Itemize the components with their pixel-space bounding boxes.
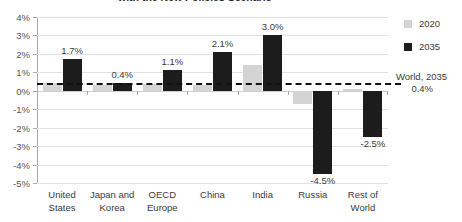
x-axis-tick [338,91,339,95]
x-axis-category-label: OECDEurope [147,188,178,214]
legend-label-2035: 2035 [419,41,440,52]
bar-2020-india [243,65,262,91]
y-axis-tick-label: -2% [13,122,30,133]
y-axis-tick-label: -4% [13,159,30,170]
x-axis-tick [387,91,388,95]
y-axis-tick [33,183,37,184]
y-axis-tick-label: 1% [16,67,30,78]
x-axis-category-label: Rest ofWorld [348,188,378,214]
bar-group: 1.1% [137,17,187,183]
y-axis-tick-label: -3% [13,141,30,152]
bar-2035-united-states [63,59,82,90]
x-axis-category-label: India [252,188,273,201]
world-reference-label: World, 2035 [396,71,447,82]
y-axis-tick-label: -5% [13,178,30,189]
bar-chart: with the New Policies Scenario 4%3%2%1%0… [0,0,462,222]
x-axis-tick [137,91,138,95]
bar-group: 1.7% [37,17,87,183]
bar-2035-oecd-europe [163,70,182,90]
x-axis-category-label: Russia [298,188,327,201]
bar-value-label: 0.4% [111,69,133,80]
bar-group: 3.0% [238,17,288,183]
bar-value-label: -4.5% [310,175,335,186]
x-axis-tick [288,91,289,95]
bar-group: -2.5% [338,17,388,183]
bar-2035-rest-of-world [363,91,382,137]
legend-swatch-2035-icon [404,43,412,51]
x-axis-tick [187,91,188,95]
x-axis-tick [37,91,38,95]
bar-value-label: 1.1% [162,56,184,67]
bar-value-label: 3.0% [262,21,284,32]
plot-area: 4%3%2%1%0%-1%-2%-3%-4%-5%1.7%0.4%1.1%2.1… [37,17,388,183]
bar-2035-russia [313,91,332,174]
legend-swatch-2020-icon [404,20,412,28]
bar-group: 2.1% [187,17,237,183]
chart-title: with the New Policies Scenario [0,0,390,3]
world-reference-line [37,83,401,85]
y-axis-tick-label: 4% [16,12,30,23]
world-reference-annotation: World, 2035 0.4% [396,71,447,95]
bar-value-label: 2.1% [212,38,234,49]
legend-label-2020: 2020 [419,18,440,29]
bar-group: -4.5% [288,17,338,183]
bar-group: 0.4% [87,17,137,183]
x-axis-category-label: Japan andKorea [90,188,134,214]
bar-2020-china [193,85,212,91]
x-axis-category-label: UnitedStates [48,188,75,214]
x-axis-tick [238,91,239,95]
x-axis-tick [87,91,88,95]
world-reference-value: 0.4% [396,83,447,95]
bar-value-label: -2.5% [360,138,385,149]
y-axis-tick-label: 3% [16,30,30,41]
chart-legend: 2020 2035 [404,18,440,64]
bar-2020-rest-of-world [343,89,362,91]
bar-value-label: 1.7% [61,45,83,56]
x-axis-category-label: China [200,188,225,201]
legend-item-2020: 2020 [404,18,440,29]
y-axis-tick-label: 2% [16,48,30,59]
x-axis-labels: UnitedStatesJapan andKoreaOECDEuropeChin… [37,188,388,222]
bar-2020-russia [293,91,312,104]
y-axis-tick-label: -1% [13,104,30,115]
bar-2020-japan-and-korea [93,85,112,91]
y-axis-tick-label: 0% [16,85,30,96]
legend-item-2035: 2035 [404,41,440,52]
